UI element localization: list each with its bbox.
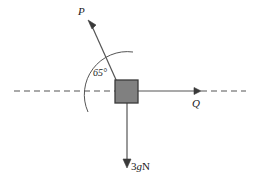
weight-unit: N [142, 160, 150, 172]
force-q-arrowhead [194, 88, 201, 95]
force-weight-label: 3gN [131, 161, 150, 172]
force-weight-arrowhead [123, 159, 131, 168]
angle-label: 65° [93, 68, 107, 78]
force-q-label: Q [192, 98, 200, 109]
force-diagram-graphics [0, 0, 253, 185]
force-diagram-canvas: P Q 65° 3gN [0, 0, 253, 185]
force-p-label: P [78, 6, 85, 17]
force-p-arrowhead [88, 20, 96, 29]
block-shape [115, 80, 138, 103]
